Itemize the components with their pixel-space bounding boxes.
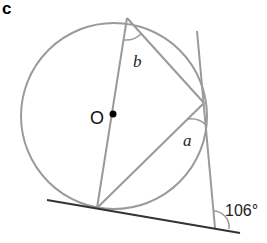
angle-label-106: 106°: [225, 202, 258, 219]
angle-arc-b: [124, 34, 141, 40]
chord-bottom-right: [97, 103, 204, 208]
center-dot: [110, 111, 117, 118]
part-label: c: [2, 0, 11, 18]
angle-label-a: a: [183, 131, 192, 150]
angle-arc-a: [188, 119, 206, 125]
center-label: O: [90, 108, 104, 128]
angle-label-b: b: [133, 52, 142, 71]
geometry-figure: c b a 106° O: [0, 0, 267, 243]
secant-line: [197, 31, 215, 228]
